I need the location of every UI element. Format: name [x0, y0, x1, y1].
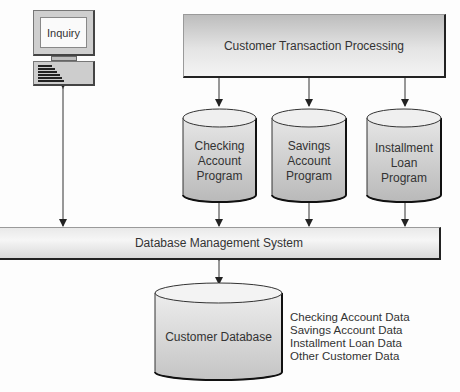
transaction-processing-box: Customer Transaction Processing — [183, 14, 446, 78]
database-contents-list: Checking Account Data Savings Account Da… — [290, 311, 410, 363]
dbms-label: Database Management System — [135, 236, 303, 250]
checking-program-label: Checking Account Program — [183, 139, 256, 184]
customer-database-label: Customer Database — [155, 330, 282, 345]
database-content-item: Checking Account Data — [290, 311, 410, 324]
database-content-item: Savings Account Data — [290, 324, 410, 337]
dbms-bar: Database Management System — [0, 227, 441, 260]
installment-program-label: Installment Loan Program — [367, 141, 441, 186]
terminal-screen: Inquiry — [40, 17, 87, 48]
terminal-label: Inquiry — [47, 27, 80, 39]
database-content-item: Installment Loan Data — [290, 337, 410, 350]
computer-terminal-icon: Inquiry — [33, 10, 95, 56]
keyboard-base — [33, 61, 95, 86]
database-content-item: Other Customer Data — [290, 350, 410, 363]
transaction-processing-label: Customer Transaction Processing — [224, 39, 404, 53]
savings-program-label: Savings Account Program — [272, 139, 346, 184]
